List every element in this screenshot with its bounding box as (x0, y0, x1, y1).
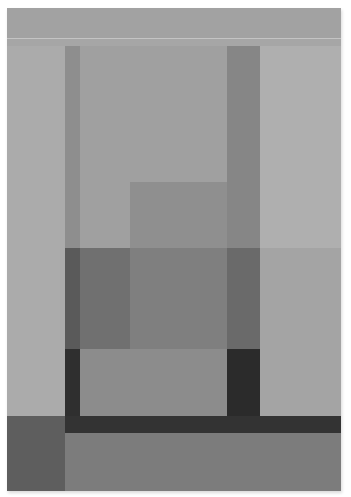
center-left-lower (80, 248, 130, 349)
left-column-lower (65, 248, 80, 349)
artwork-canvas: Abstract geometric composition in gray t… (7, 8, 341, 491)
right-column-upper (227, 46, 260, 248)
dark-horizontal-bar (65, 416, 341, 433)
bottom-left-block (7, 416, 65, 491)
bottom-band (65, 433, 341, 491)
top-sub-band (7, 39, 341, 46)
center-mid-lower (130, 248, 227, 349)
center-step (130, 182, 227, 248)
center-left-mid (80, 182, 130, 248)
center-box-bottom (80, 349, 227, 416)
top-band (7, 8, 341, 38)
right-panel-lower (260, 248, 341, 416)
right-column-bottom (227, 349, 260, 416)
center-upper (80, 46, 227, 182)
left-column-bottom (65, 349, 80, 416)
right-panel-upper (260, 46, 341, 248)
left-panel (7, 46, 65, 416)
left-column-upper (65, 46, 80, 248)
right-column-lower (227, 248, 260, 349)
